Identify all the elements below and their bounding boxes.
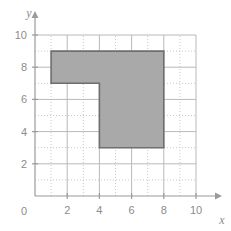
x-tick-label-8: 8: [161, 204, 167, 216]
y-tick-label-10: 10: [15, 29, 27, 41]
coordinate-grid-figure: 246810246810 x y 0: [0, 0, 231, 231]
x-axis-label: x: [218, 213, 225, 227]
x-axis-arrow-icon: [215, 193, 222, 200]
x-tick-label-4: 4: [96, 204, 102, 216]
y-tick-label-2: 2: [21, 158, 27, 170]
x-tick-label-2: 2: [64, 204, 70, 216]
x-tick-label-10: 10: [190, 204, 202, 216]
y-tick-label-4: 4: [21, 126, 27, 138]
origin-label: 0: [21, 205, 27, 217]
x-tick-label-6: 6: [129, 204, 135, 216]
y-tick-label-8: 8: [21, 61, 27, 73]
plot-svg: 246810246810 x y 0: [0, 0, 231, 231]
y-axis-label: y: [25, 6, 32, 20]
y-tick-label-6: 6: [21, 93, 27, 105]
y-axis-arrow-icon: [32, 11, 39, 18]
